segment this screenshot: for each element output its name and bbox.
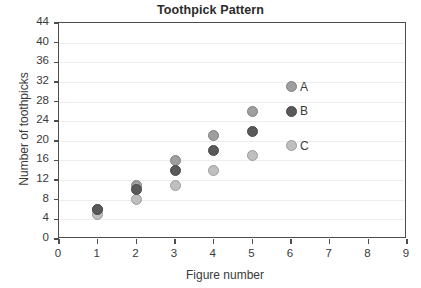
data-point-a	[247, 106, 258, 117]
gridline	[59, 82, 405, 83]
x-tick-label: 4	[202, 248, 224, 260]
data-point-a	[208, 130, 219, 141]
gridline	[59, 62, 405, 63]
x-tick	[252, 239, 253, 244]
data-point-b	[247, 126, 258, 137]
y-tick	[54, 219, 59, 220]
gridline	[59, 219, 405, 220]
y-tick-label: 44	[23, 16, 49, 28]
data-point-c	[131, 194, 142, 205]
x-axis-title: Figure number	[50, 268, 400, 282]
series-label-c: C	[300, 140, 309, 152]
x-tick-label: 9	[395, 248, 417, 260]
y-tick	[54, 179, 59, 180]
x-tick-label: 2	[124, 248, 146, 260]
y-tick	[54, 140, 59, 141]
x-tick-label: 8	[356, 248, 378, 260]
data-point-c	[247, 150, 258, 161]
data-point-b	[286, 106, 297, 117]
gridline	[59, 160, 405, 161]
y-tick	[54, 62, 59, 63]
x-tick-label: 3	[163, 248, 185, 260]
plot-area: ABC	[58, 22, 406, 238]
gridline	[59, 43, 405, 44]
data-point-c	[170, 180, 181, 191]
x-tick-label: 0	[47, 248, 69, 260]
x-tick	[58, 239, 59, 244]
chart-title: Toothpick Pattern	[0, 3, 421, 17]
y-tick	[54, 42, 59, 43]
x-tick-label: 7	[318, 248, 340, 260]
data-point-b	[131, 184, 142, 195]
y-tick-label: 0	[23, 232, 49, 244]
data-point-b	[170, 165, 181, 176]
x-tick-label: 6	[279, 248, 301, 260]
x-tick-label: 5	[240, 248, 262, 260]
data-point-c	[208, 165, 219, 176]
y-tick	[54, 199, 59, 200]
x-tick	[290, 239, 291, 244]
series-label-a: A	[300, 81, 308, 93]
x-tick	[213, 239, 214, 244]
x-tick	[97, 239, 98, 244]
y-axis-title: Number of toothpicks	[17, 29, 31, 229]
data-point-b	[208, 145, 219, 156]
gridline	[59, 102, 405, 103]
y-tick	[54, 22, 59, 23]
scatter-chart: Toothpick Pattern Number of toothpicks F…	[0, 0, 421, 288]
series-label-b: B	[300, 105, 308, 117]
gridline	[59, 200, 405, 201]
x-tick-label: 1	[86, 248, 108, 260]
x-tick	[368, 239, 369, 244]
gridline	[59, 141, 405, 142]
x-tick	[329, 239, 330, 244]
x-tick	[174, 239, 175, 244]
gridline	[59, 180, 405, 181]
x-tick	[136, 239, 137, 244]
y-tick	[54, 81, 59, 82]
x-tick	[406, 239, 407, 244]
y-tick	[54, 101, 59, 102]
data-point-a	[286, 81, 297, 92]
y-tick	[54, 160, 59, 161]
y-tick	[54, 120, 59, 121]
gridline	[59, 121, 405, 122]
data-point-c	[286, 140, 297, 151]
